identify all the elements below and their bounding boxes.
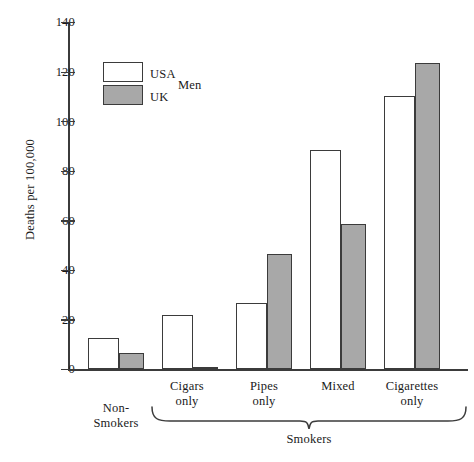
panel-label-men: Men (178, 78, 202, 93)
bar-mixed-uk (341, 224, 366, 369)
y-tick-mark-40 (61, 270, 75, 271)
legend-swatch-uk (103, 85, 143, 105)
y-tick-mark-100 (61, 121, 75, 122)
y-tick-mark-80 (61, 171, 75, 172)
y-tick-mark-60 (61, 220, 75, 221)
smokers-brace-icon (150, 405, 468, 431)
bar-pipes-only-uk (267, 254, 292, 370)
baseline-segment-right (158, 369, 468, 371)
bar-cigarettes-only-uk (415, 63, 440, 369)
brace-label-smokers: Smokers (150, 432, 468, 447)
bar-cigarettes-only-usa (384, 96, 415, 369)
category-label-line1: Cigarettes (357, 379, 467, 394)
legend-label-uk: UK (150, 90, 168, 104)
y-tick-mark-20 (61, 319, 75, 320)
legend-swatch-usa (103, 62, 143, 82)
legend-label-usa: USA (150, 67, 176, 81)
bar-non-smokers-usa (88, 338, 119, 369)
y-axis-title: Deaths per 100,000 (23, 115, 38, 265)
bar-mixed-usa (310, 150, 341, 369)
bar-pipes-only-usa (236, 303, 267, 369)
y-tick-mark-120 (61, 72, 75, 73)
bar-chart: 140 120 100 80 60 40 20 0 Deaths per 100… (0, 0, 474, 462)
bar-cigars-only-usa (162, 315, 193, 369)
baseline-segment-left (68, 369, 158, 371)
y-tick-mark-140 (61, 22, 75, 23)
bar-non-smokers-uk (119, 353, 144, 369)
